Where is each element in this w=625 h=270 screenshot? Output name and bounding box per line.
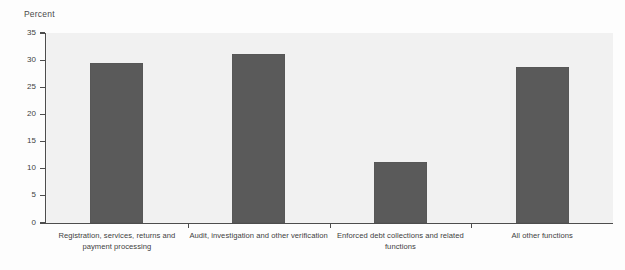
category-label: Registration, services, returns andpayme… (46, 231, 188, 252)
y-axis-tick-label: 25 (14, 82, 36, 91)
x-axis-separator-tick (188, 224, 189, 228)
y-axis-tick (40, 195, 45, 196)
category-label-line: All other functions (471, 231, 613, 242)
x-axis-separator-tick (330, 224, 331, 228)
bar-chart: Percent 05101520253035 Registration, ser… (0, 0, 625, 270)
bar (90, 63, 143, 223)
category-label: Audit, investigation and other verificat… (188, 231, 330, 242)
y-axis-tick (40, 222, 45, 223)
y-axis-tick-label: 15 (14, 136, 36, 145)
y-axis-tick-label: 0 (14, 218, 36, 227)
category-label: Enforced debt collections and relatedfun… (330, 231, 472, 252)
category-label-line: functions (330, 242, 472, 253)
y-axis-line (45, 33, 46, 224)
category-label-line: Registration, services, returns and (46, 231, 188, 242)
y-axis-tick (40, 87, 45, 88)
y-axis-title: Percent (24, 9, 55, 19)
y-axis-tick (40, 141, 45, 142)
bar (374, 162, 427, 223)
y-axis-tick-label: 35 (14, 28, 36, 37)
x-axis-separator-tick (471, 224, 472, 228)
y-axis-tick-label: 30 (14, 55, 36, 64)
y-axis-tick (40, 32, 45, 33)
bar (516, 67, 569, 223)
bar (232, 54, 285, 223)
y-axis-tick-label: 5 (14, 190, 36, 199)
y-axis-tick (40, 168, 45, 169)
category-label: All other functions (471, 231, 613, 242)
category-label-line: Enforced debt collections and related (330, 231, 472, 242)
category-label-line: payment processing (46, 242, 188, 253)
y-axis-tick (40, 114, 45, 115)
y-axis-tick-label: 10 (14, 163, 36, 172)
y-axis-tick (40, 60, 45, 61)
category-label-line: Audit, investigation and other verificat… (188, 231, 330, 242)
y-axis-tick-label: 20 (14, 109, 36, 118)
